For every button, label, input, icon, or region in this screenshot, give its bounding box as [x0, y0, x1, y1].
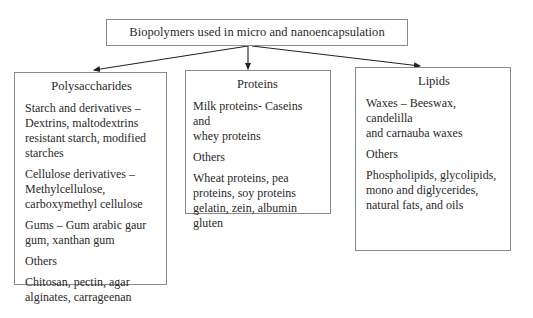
root-title-text: Biopolymers used in micro and nanoencaps… [129, 25, 384, 40]
category-box-lipids: Lipids Waxes – Beeswax, candelilla and c… [355, 67, 511, 251]
category-item: Cellulose derivatives – Methylcellulose,… [25, 167, 158, 212]
category-item: Waxes – Beeswax, candelilla and carnauba… [366, 96, 502, 141]
category-item: Gums – Gum arabic gaur gum, xanthan gum [25, 218, 158, 248]
category-box-polysaccharides: Polysaccharides Starch and derivatives –… [14, 72, 167, 285]
category-item: Starch and derivatives – Dextrins, malto… [25, 101, 158, 161]
category-box-proteins: Proteins Milk proteins- Caseins and whey… [185, 70, 331, 214]
category-title: Polysaccharides [25, 79, 158, 94]
arrow-to-polysaccharides [94, 46, 248, 70]
category-item: Chitosan, pectin, agar alginates, carrag… [25, 275, 158, 305]
category-item: Phospholipids, glycolipids, mono and dig… [366, 168, 502, 213]
category-item-others-label: Others [25, 254, 158, 269]
arrow-to-lipids [252, 46, 420, 66]
category-title: Proteins [193, 77, 322, 92]
category-item-others-label: Others [193, 150, 322, 165]
category-title: Lipids [366, 74, 502, 89]
category-item-others-label: Others [366, 147, 502, 162]
category-item: Wheat proteins, pea proteins, soy protei… [193, 171, 322, 231]
category-item: Milk proteins- Caseins and whey proteins [193, 99, 322, 144]
root-node-title: Biopolymers used in micro and nanoencaps… [106, 19, 408, 46]
